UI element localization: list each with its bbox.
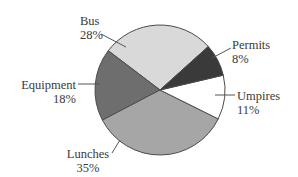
label-bus-name: Bus	[80, 14, 99, 28]
label-lunches-name: Lunches	[67, 147, 109, 161]
label-bus: Bus 28%	[80, 14, 103, 42]
label-bus-pct: 28%	[80, 28, 103, 42]
label-umpires-name: Umpires	[237, 89, 280, 103]
label-lunches-pct: 35%	[60, 161, 116, 175]
label-umpires: Umpires 11%	[237, 89, 280, 117]
pie-slices	[95, 25, 225, 155]
label-permits: Permits 8%	[232, 38, 270, 66]
leader-line-permits	[212, 48, 231, 58]
label-equipment-pct: 18%	[8, 92, 76, 106]
label-equipment: Equipment 18%	[8, 78, 76, 106]
label-lunches: Lunches 35%	[60, 147, 116, 175]
label-umpires-pct: 11%	[237, 103, 280, 117]
label-permits-name: Permits	[232, 38, 270, 52]
label-permits-pct: 8%	[232, 52, 270, 66]
label-equipment-name: Equipment	[21, 78, 76, 92]
